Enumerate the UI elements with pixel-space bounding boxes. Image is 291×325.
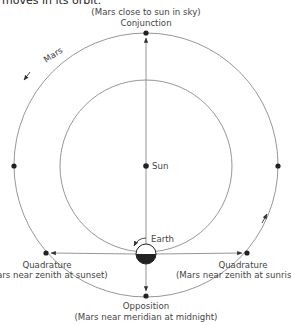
mars-label: Mars xyxy=(42,45,65,65)
sun-dot xyxy=(143,163,149,169)
mars-direction-arrow-icon xyxy=(24,72,30,80)
conjunction-note: (Mars close to sun in sky) xyxy=(91,7,200,17)
sun-label: Sun xyxy=(152,161,168,171)
opposition-label: Opposition xyxy=(123,301,169,311)
line-to-quadrature-left xyxy=(51,253,136,254)
earth-label: Earth xyxy=(151,234,174,244)
quadrature-left-note: (Mars near zenith at sunset) xyxy=(0,270,108,280)
conjunction-label: Conjunction xyxy=(120,18,171,28)
mars-quadrature-right-dot xyxy=(244,250,249,255)
earth-icon xyxy=(136,244,156,264)
mars-orbit-diagram: (Mars close to sun in sky) Conjunction M… xyxy=(0,0,291,325)
mars-opposition-dot xyxy=(143,293,148,298)
quadrature-right-note: (Mars near zenith at sunrise) xyxy=(176,270,291,280)
mars-right-dot xyxy=(275,163,280,168)
mars-conjunction-dot xyxy=(143,30,148,35)
opposition-note: (Mars near meridian at midnight) xyxy=(75,312,218,322)
mars-left-dot xyxy=(11,163,16,168)
quadrature-left-label: Quadrature xyxy=(22,260,71,270)
quadrature-right-label: Quadrature xyxy=(218,260,267,270)
mars-quadrature-left-dot xyxy=(43,250,48,255)
line-to-quadrature-right xyxy=(156,253,242,254)
